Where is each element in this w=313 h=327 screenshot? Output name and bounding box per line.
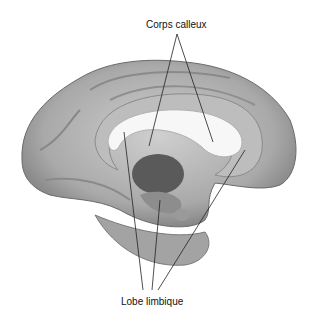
- label-corps-calleux: Corps calleux: [146, 19, 207, 30]
- label-lobe-limbique: Lobe limbique: [121, 296, 183, 307]
- brain-illustration: [0, 0, 313, 327]
